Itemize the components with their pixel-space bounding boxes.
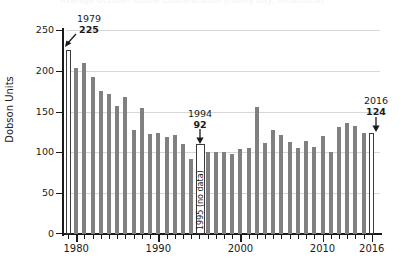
x-tick-2009: [314, 235, 315, 239]
x-tick-label-1990: 1990: [136, 243, 180, 254]
annotation-2016-value: 124: [348, 106, 404, 117]
x-tick-1985: [117, 235, 118, 239]
bar-1996: [206, 152, 210, 234]
bar-1990: [156, 133, 160, 234]
y-tick-label-250: 250: [28, 25, 54, 35]
annotation-1979-arrow-icon: [62, 33, 78, 49]
bar-1999: [230, 154, 234, 234]
x-tick-1995: [199, 235, 200, 239]
y-tick-label-200: 200: [28, 66, 54, 76]
x-tick-label-2010: 2010: [301, 243, 345, 254]
bar-1980: [74, 68, 78, 234]
x-tick-1996: [208, 235, 209, 239]
x-tick-1991: [167, 235, 168, 239]
annotation-1994: 1994 92: [172, 108, 228, 130]
bar-2008: [304, 141, 308, 234]
annotation-1994-year: 1994: [172, 108, 228, 119]
annotation-2016-year: 2016: [348, 95, 404, 106]
x-tick-2010: [323, 235, 325, 242]
annotation-1979-year: 1979: [62, 13, 116, 24]
bar-1994: [189, 159, 193, 234]
bar-2011: [329, 152, 333, 234]
x-tick-1979: [68, 235, 69, 239]
x-tick-2013: [347, 235, 348, 239]
x-tick-1984: [109, 235, 110, 239]
x-tick-1986: [125, 235, 126, 239]
x-tick-2014: [355, 235, 356, 239]
bar-2000: [238, 149, 242, 234]
bar-1983: [99, 91, 103, 234]
x-tick-1982: [93, 235, 94, 239]
y-axis-title: Dobson Units: [4, 55, 15, 165]
x-tick-label-2016: 2016: [350, 243, 394, 254]
x-tick-2012: [339, 235, 340, 239]
bar-1986: [123, 97, 127, 234]
x-tick-2007: [298, 235, 299, 239]
x-tick-1990: [158, 235, 160, 242]
x-tick-2008: [306, 235, 307, 239]
y-tick-label-100: 100: [28, 147, 54, 157]
bar-1985: [115, 106, 119, 234]
bar-2007: [296, 148, 300, 234]
x-tick-2003: [265, 235, 266, 239]
x-tick-2006: [290, 235, 291, 239]
bar-2015: [362, 133, 366, 234]
bar-2003: [263, 143, 267, 234]
ozone-bar-chart: Average October Ozone Concentration (Hal…: [0, 0, 416, 272]
y-axis-line: [62, 28, 64, 236]
bar-1993: [181, 144, 185, 234]
y-tick-label-0: 0: [28, 229, 54, 239]
bar-1991: [165, 137, 169, 234]
no-data-box-1995: 1995 (no data): [196, 144, 205, 234]
bar-2002: [255, 107, 259, 234]
x-tick-1997: [216, 235, 217, 239]
x-tick-1983: [101, 235, 102, 239]
bar-2010: [321, 136, 325, 234]
bar-1982: [91, 77, 95, 234]
bar-2001: [247, 148, 251, 234]
bar-1992: [173, 135, 177, 234]
x-tick-2011: [331, 235, 332, 239]
x-tick-1993: [183, 235, 184, 239]
x-tick-2016: [372, 235, 374, 242]
bar-1987: [132, 130, 136, 234]
x-tick-2005: [281, 235, 282, 239]
gridline-200: [66, 71, 380, 72]
x-tick-1999: [232, 235, 233, 239]
plot-area: 1995 (no data): [66, 30, 380, 234]
x-tick-1994: [191, 235, 192, 239]
x-tick-2015: [364, 235, 365, 239]
x-tick-1980: [76, 235, 78, 242]
bar-1988: [140, 108, 144, 234]
x-tick-1988: [142, 235, 143, 239]
annotation-2016-arrow-icon: [370, 117, 382, 133]
bar-2016: [369, 133, 374, 234]
x-tick-label-1980: 1980: [54, 243, 98, 254]
bar-2006: [288, 142, 292, 234]
x-tick-1989: [150, 235, 151, 239]
annotation-2016: 2016 124: [348, 95, 404, 117]
x-tick-label-2000: 2000: [218, 243, 262, 254]
chart-title-clipped: Average October Ozone Concentration (Hal…: [60, 0, 360, 5]
bar-2013: [345, 123, 349, 234]
bar-1984: [107, 94, 111, 234]
bar-1998: [222, 152, 226, 234]
x-tick-2001: [249, 235, 250, 239]
bar-2012: [337, 127, 341, 234]
bar-1997: [214, 152, 218, 234]
x-tick-1992: [175, 235, 176, 239]
bar-2004: [271, 130, 275, 234]
x-tick-1998: [224, 235, 225, 239]
bar-1989: [148, 134, 152, 234]
no-data-label: 1995 (no data): [196, 170, 205, 230]
x-tick-2004: [273, 235, 274, 239]
x-tick-2002: [257, 235, 258, 239]
x-tick-1981: [84, 235, 85, 239]
bar-2014: [353, 126, 357, 234]
y-tick-label-50: 50: [28, 188, 54, 198]
y-axis-labels: 250 200 150 100 50 0 Dobson Units: [0, 0, 54, 272]
x-tick-2000: [240, 235, 242, 242]
bar-2005: [279, 135, 283, 234]
bar-1981: [82, 63, 86, 234]
annotation-1994-arrow-icon: [194, 129, 206, 145]
